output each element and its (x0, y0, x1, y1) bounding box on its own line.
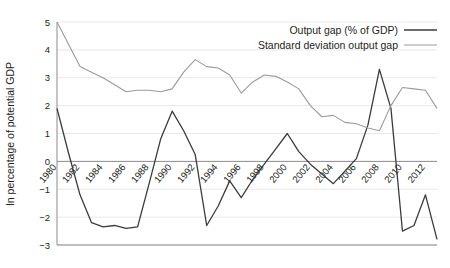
legend-label: Standard deviation output gap (258, 39, 398, 51)
y-tick-label: 3 (45, 72, 50, 83)
y-tick-label: 5 (45, 17, 50, 28)
y-tick-label: 2 (45, 100, 50, 111)
chart-container: 543210−1−2−3 198019821984198619881990199… (0, 0, 450, 268)
legend-label: Output gap (% of GDP) (289, 24, 398, 36)
y-tick-label: −1 (39, 184, 50, 195)
output-gap-line-chart: 543210−1−2−3 198019821984198619881990199… (0, 0, 450, 268)
y-axis-title: In percentage of potential GDP (4, 62, 16, 206)
y-tick-label: −3 (39, 240, 50, 251)
y-tick-label: 4 (45, 44, 50, 55)
y-tick-label: 1 (45, 128, 50, 139)
y-tick-label: −2 (39, 212, 50, 223)
